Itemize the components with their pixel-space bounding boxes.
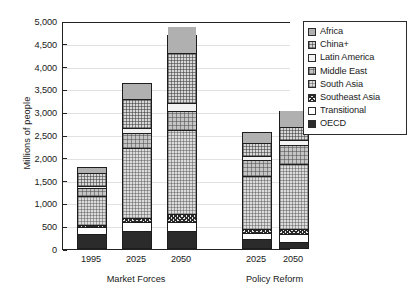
bar-policy-reform-2025[interactable] — [242, 132, 272, 249]
bar-segment-transitional — [243, 234, 271, 240]
bar-segment-oecd — [123, 232, 151, 248]
bar-segment-southeast-asia — [123, 219, 151, 224]
bar-segment-middle-east — [78, 189, 106, 197]
bar-segment-latin-america — [123, 129, 151, 134]
legend-item-south-asia[interactable]: South Asia — [308, 78, 403, 91]
bar-segment-middle-east — [243, 161, 271, 176]
y-axis-tick-label: 4,500 — [35, 40, 64, 50]
legend-swatch-icon — [308, 80, 316, 88]
y-axis-tick-label: 2,000 — [35, 154, 64, 164]
y-axis-tick-label: 4,000 — [35, 63, 64, 73]
legend-label: OECD — [320, 119, 346, 128]
bar-segment-africa — [123, 84, 151, 101]
stacked-bar-chart-figure: Millions of people 05001,0001,5002,0002,… — [0, 0, 411, 307]
bar-segment-africa — [243, 133, 271, 144]
bar-market-forces-2050[interactable] — [167, 35, 197, 249]
y-axis-tick-label: 5,000 — [35, 17, 64, 27]
legend-label: Middle East — [320, 67, 367, 76]
legend-item-chinaplus[interactable]: China+ — [308, 38, 403, 51]
bar-segment-south-asia — [243, 177, 271, 230]
bar-segment-latin-america — [168, 104, 196, 113]
legend-item-africa[interactable]: Africa — [308, 25, 403, 38]
bar-segment-south-asia — [78, 197, 106, 227]
bar-segment-africa — [168, 27, 196, 53]
bar-segment-southeast-asia — [78, 226, 106, 228]
legend-item-southeast-asia[interactable]: Southeast Asia — [308, 91, 403, 104]
x-axis-tick-label-4: 2050 — [283, 254, 303, 264]
legend-swatch-icon — [308, 54, 316, 62]
bar-segment-chinaplus — [243, 144, 271, 157]
legend-item-middle-east[interactable]: Middle East — [308, 65, 403, 78]
bar-segment-oecd — [168, 232, 196, 248]
bar-segment-south-asia — [168, 131, 196, 215]
bar-segment-transitional — [78, 228, 106, 235]
bar-segment-latin-america — [280, 141, 308, 146]
bar-segment-oecd — [78, 235, 106, 248]
bar-segment-chinaplus — [78, 174, 106, 187]
plot-inner: 05001,0001,5002,0002,5003,0003,5004,0004… — [63, 22, 290, 249]
y-axis-tick-label: 1,500 — [35, 177, 64, 187]
y-axis-title: Millions of people — [22, 48, 32, 218]
bar-market-forces-2025[interactable] — [122, 83, 152, 249]
bar-market-forces-1995[interactable] — [77, 167, 107, 249]
bar-segment-chinaplus — [168, 54, 196, 104]
bar-segment-southeast-asia — [168, 215, 196, 223]
bar-segment-south-asia — [280, 165, 308, 229]
bar-segment-transitional — [168, 223, 196, 232]
bar-segment-middle-east — [280, 146, 308, 165]
x-axis-group-label-market-forces: Market Forces — [107, 274, 166, 284]
legend-swatch-icon — [308, 28, 316, 36]
legend-label: South Asia — [320, 80, 363, 89]
y-axis-tick-label: 3,500 — [35, 85, 64, 95]
bar-segment-latin-america — [78, 187, 106, 189]
y-axis-tick-label: 2,500 — [35, 131, 64, 141]
legend-item-latin-america[interactable]: Latin America — [308, 51, 403, 64]
gridline — [63, 22, 290, 23]
legend-label: Transitional — [320, 106, 366, 115]
bar-segment-southeast-asia — [280, 230, 308, 236]
bar-segment-transitional — [280, 235, 308, 243]
bar-segment-oecd — [280, 243, 308, 248]
bar-segment-chinaplus — [123, 100, 151, 129]
legend-item-transitional[interactable]: Transitional — [308, 104, 403, 117]
bar-segment-middle-east — [123, 134, 151, 150]
legend-swatch-icon — [308, 94, 316, 102]
x-axis-tick-label-1: 2025 — [126, 254, 146, 264]
legend-label: Latin America — [320, 53, 374, 62]
bar-segment-middle-east — [168, 112, 196, 131]
x-axis-tick-label-2: 2050 — [171, 254, 191, 264]
legend-swatch-icon — [308, 107, 316, 115]
bar-segment-oecd — [243, 240, 271, 249]
bar-segment-latin-america — [243, 157, 271, 161]
legend-label: Southeast Asia — [320, 93, 380, 102]
legend-label: China+ — [320, 40, 349, 49]
y-axis-tick-label: 500 — [42, 222, 63, 232]
x-axis-group-label-policy-reform: Policy Reform — [246, 274, 303, 284]
bar-segment-south-asia — [123, 149, 151, 219]
x-axis-tick-label-3: 2025 — [246, 254, 266, 264]
y-axis-tick-label: 1,000 — [35, 199, 64, 209]
bar-segment-transitional — [123, 223, 151, 232]
legend-swatch-icon — [308, 41, 316, 49]
y-axis-tick-label: 0 — [52, 245, 63, 255]
x-axis-tick-label-0: 1995 — [81, 254, 101, 264]
y-axis-tick-label: 3,000 — [35, 108, 64, 118]
bar-segment-southeast-asia — [243, 230, 271, 234]
legend-swatch-icon — [308, 67, 316, 75]
legend-swatch-icon — [308, 120, 316, 128]
legend-item-oecd[interactable]: OECD — [308, 117, 403, 130]
legend-label: Africa — [320, 27, 343, 36]
bar-segment-africa — [78, 168, 106, 174]
legend: AfricaChina+Latin AmericaMiddle EastSout… — [303, 21, 407, 135]
plot-area: 05001,0001,5002,0002,5003,0003,5004,0004… — [62, 22, 290, 250]
